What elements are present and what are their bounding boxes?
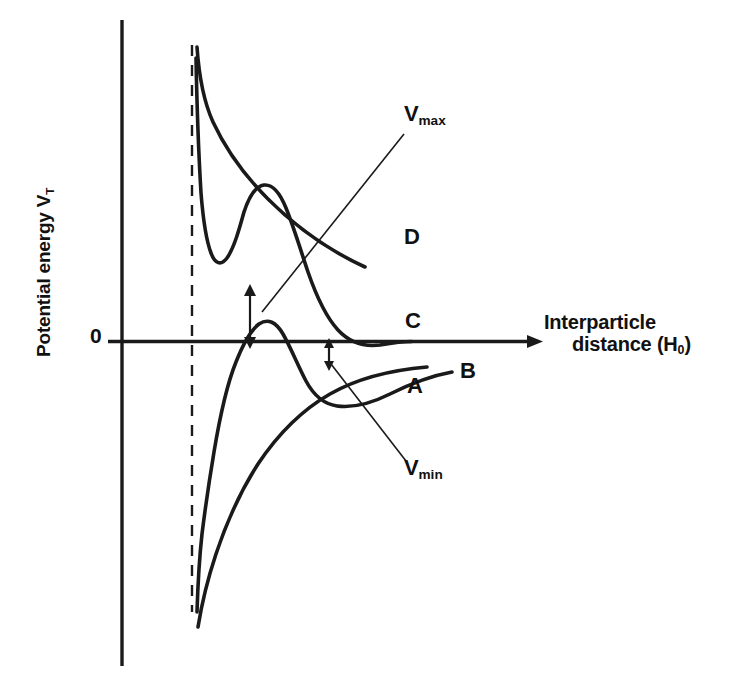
- potential-energy-diagram: Potential energy VT Interparticledistanc…: [0, 0, 749, 692]
- x-axis-title-line1: Interparticle: [544, 311, 656, 333]
- vmin-label-subscript: min: [418, 467, 442, 482]
- y-axis-title: Potential energy VT: [34, 152, 55, 392]
- vmax-arrowhead-up: [244, 284, 256, 296]
- vmax-label-subscript: max: [418, 113, 445, 128]
- x-axis-title-line2: distance (H0): [544, 334, 691, 356]
- curve-a: [198, 367, 427, 627]
- x-axis-title-line2-end: ): [685, 333, 691, 355]
- curve-label-c: C: [405, 309, 421, 333]
- origin-label: 0: [90, 325, 101, 348]
- x-axis-title-line2-text: distance (H: [572, 333, 678, 355]
- x-axis-title-subscript: 0: [678, 343, 685, 357]
- curve-label-b: B: [460, 359, 476, 383]
- y-axis-title-text: Potential energy V: [33, 195, 54, 357]
- curve-d: [197, 47, 365, 267]
- x-axis-title: Interparticledistance (H0): [544, 312, 691, 355]
- vmax-label-text: V: [404, 101, 418, 126]
- vmin-label: Vmin: [404, 456, 443, 480]
- curve-label-a: A: [407, 374, 423, 398]
- y-axis-title-subscript: T: [42, 188, 55, 195]
- vmin-label-text: V: [404, 455, 418, 480]
- vmax-leader-line: [262, 134, 404, 312]
- curve-c: [196, 58, 412, 345]
- vmax-label: Vmax: [404, 102, 446, 126]
- curve-label-d: D: [404, 225, 420, 249]
- x-axis-arrowhead: [527, 335, 543, 348]
